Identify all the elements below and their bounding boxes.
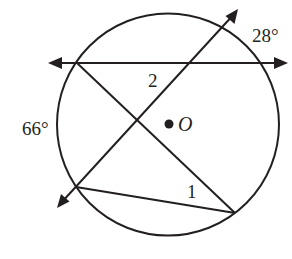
center-point [165,120,174,129]
diagonal-secant [61,13,235,203]
arc-label-66: 66° [22,118,49,139]
angle-1-label: 1 [187,181,197,202]
angle-2-label: 2 [148,70,158,91]
center-label: O [178,113,192,135]
circle-secant-diagram: O 28° 66° 2 1 [0,0,292,259]
arc-label-28: 28° [252,25,279,46]
arrowhead-right-icon [274,57,288,69]
arrowhead-left-icon [48,57,62,69]
